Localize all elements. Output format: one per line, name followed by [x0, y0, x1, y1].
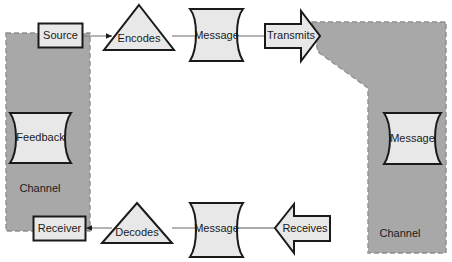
arrowhead-encodes: [106, 33, 112, 39]
decodes-label: Decodes: [115, 226, 159, 238]
receives-label: Receives: [282, 222, 328, 234]
source-label: Source: [43, 29, 78, 41]
node-feedback[interactable]: Feedback: [10, 113, 71, 163]
node-source[interactable]: Source: [39, 24, 83, 48]
node-receiver[interactable]: Receiver: [34, 217, 86, 241]
channel-left-label: Channel: [20, 182, 61, 194]
node-decodes[interactable]: Decodes: [102, 203, 172, 243]
node-encodes[interactable]: Encodes: [104, 5, 174, 50]
transmits-label: Transmits: [267, 29, 315, 41]
communication-model-diagram: Channel Channel Source Encodes: [0, 0, 452, 262]
encodes-label: Encodes: [118, 32, 161, 44]
node-transmits[interactable]: Transmits: [265, 11, 320, 61]
feedback-label: Feedback: [16, 131, 65, 143]
node-message-top[interactable]: Message: [190, 9, 243, 61]
diagram-canvas: Channel Channel Source Encodes: [0, 0, 452, 262]
node-message-right[interactable]: Message: [384, 113, 441, 164]
message-top-label: Message: [194, 29, 239, 41]
channel-right-label: Channel: [380, 227, 421, 239]
receiver-label: Receiver: [38, 222, 82, 234]
node-receives[interactable]: Receives: [275, 204, 330, 253]
connector-lines-group: [83, 33, 278, 231]
node-message-bottom[interactable]: Message: [190, 203, 243, 257]
message-bottom-label: Message: [194, 222, 239, 234]
message-right-label: Message: [390, 132, 435, 144]
